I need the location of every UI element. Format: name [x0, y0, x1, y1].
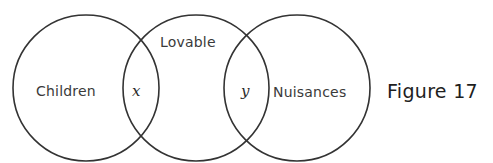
region-label-x: x: [132, 84, 140, 99]
set-label-children: Children: [36, 84, 96, 98]
set-label-nuisances: Nuisances: [273, 85, 346, 99]
set-label-lovable: Lovable: [160, 35, 216, 49]
region-label-y: y: [241, 84, 249, 99]
figure-caption: Figure 17: [387, 82, 478, 101]
venn-diagram: Children Lovable Nuisances x y Figure 17: [0, 0, 493, 163]
